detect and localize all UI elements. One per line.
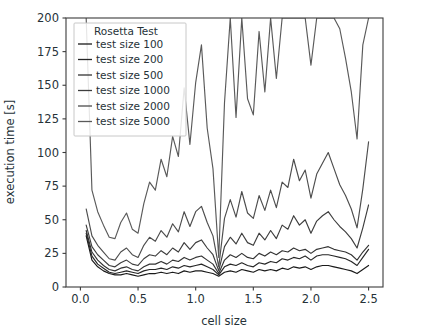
y-tick-label: 100 — [37, 146, 59, 160]
chart-figure: 0.00.51.01.52.02.5 025507510012515017520… — [0, 0, 433, 332]
y-tick-label: 25 — [44, 246, 59, 260]
legend-title: Rosetta Test — [94, 25, 158, 37]
legend-label-3[interactable]: test size 1000 — [96, 84, 170, 96]
x-tick-label: 0.5 — [129, 292, 147, 306]
x-axis-label: cell size — [201, 314, 247, 328]
chart-legend[interactable]: Rosetta Testtest size 100test size 200te… — [74, 23, 186, 136]
figure-background — [0, 0, 433, 332]
y-tick-label: 0 — [52, 280, 59, 294]
y-tick-label: 125 — [37, 112, 59, 126]
x-tick-label: 2.5 — [359, 292, 377, 306]
y-tick-label: 50 — [44, 213, 59, 227]
x-tick-label: 2.0 — [302, 292, 320, 306]
legend-label-4[interactable]: test size 2000 — [96, 100, 170, 112]
x-tick-label: 1.0 — [187, 292, 205, 306]
legend-label-5[interactable]: test size 5000 — [96, 115, 170, 127]
legend-label-2[interactable]: test size 500 — [96, 69, 163, 81]
x-tick-label: 0.0 — [71, 292, 89, 306]
x-tick-label: 1.5 — [244, 292, 262, 306]
y-tick-label: 200 — [37, 11, 59, 25]
legend-label-1[interactable]: test size 200 — [96, 53, 163, 65]
line-chart: 0.00.51.01.52.02.5 025507510012515017520… — [0, 0, 433, 332]
y-axis-label: execution time [s] — [3, 100, 17, 204]
y-tick-label: 175 — [37, 45, 59, 59]
y-tick-label: 150 — [37, 78, 59, 92]
legend-label-0[interactable]: test size 100 — [96, 38, 163, 50]
y-tick-label: 75 — [44, 179, 59, 193]
